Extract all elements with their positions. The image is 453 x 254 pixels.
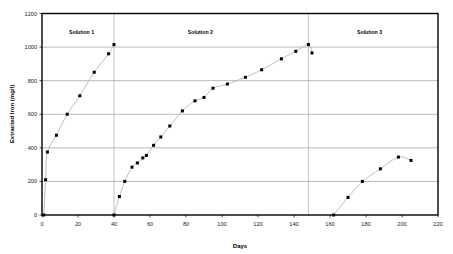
x-tick-label-60: 60 (147, 221, 153, 227)
data-point-s3-4 (397, 156, 400, 159)
y-tick-label-400: 400 (28, 145, 37, 151)
y-axis-title: Extracted Iron (mg/l) (9, 85, 15, 143)
x-tick-label-0: 0 (40, 221, 43, 227)
fit-curve-series-1 (44, 45, 114, 215)
fit-curves-group (44, 45, 411, 215)
data-point-s2-13 (212, 87, 215, 90)
data-point-s3-0 (332, 214, 335, 217)
data-point-s2-6 (145, 154, 148, 157)
extracted-iron-scatter-chart: 020040060080010001200 020406080100120140… (0, 0, 453, 254)
data-point-s2-1 (118, 195, 121, 198)
data-point-s1-8 (113, 43, 116, 46)
data-point-s2-3 (131, 166, 134, 169)
x-axis-title: Days (233, 243, 248, 249)
data-point-s2-10 (181, 109, 184, 112)
y-axis-ticks-group: 020040060080010001200 (25, 11, 42, 219)
series-annotations-group: Solution 1Solution 2Solution 3 (69, 29, 382, 35)
data-point-s2-12 (203, 96, 206, 99)
x-tick-label-100: 100 (217, 221, 226, 227)
series-annotation-2: Solution 2 (188, 29, 213, 35)
x-tick-label-120: 120 (253, 221, 262, 227)
data-point-s1-7 (107, 52, 110, 55)
data-point-s2-20 (311, 51, 314, 54)
data-point-s3-1 (347, 196, 350, 199)
y-tick-label-0: 0 (34, 212, 37, 218)
y-tick-label-200: 200 (28, 178, 37, 184)
x-tick-label-180: 180 (361, 221, 370, 227)
data-point-s2-4 (136, 161, 139, 164)
data-point-s2-19 (307, 43, 310, 46)
x-tick-label-200: 200 (397, 221, 406, 227)
series-annotation-1: Solution 1 (69, 29, 94, 35)
x-tick-label-160: 160 (325, 221, 334, 227)
data-point-s1-1 (44, 178, 47, 181)
y-tick-label-800: 800 (28, 78, 37, 84)
data-point-s3-5 (410, 159, 413, 162)
data-point-s2-16 (260, 68, 263, 71)
data-point-s2-0 (113, 214, 116, 217)
data-point-s1-6 (93, 71, 96, 74)
data-point-s2-7 (152, 144, 155, 147)
data-point-s1-5 (78, 94, 81, 97)
data-point-s2-2 (123, 180, 126, 183)
x-tick-label-220: 220 (433, 221, 442, 227)
x-tick-label-40: 40 (111, 221, 117, 227)
data-point-s2-18 (294, 50, 297, 53)
data-point-s1-0 (42, 214, 45, 217)
data-point-s1-2 (46, 151, 49, 154)
data-point-s2-15 (244, 76, 247, 79)
data-point-s2-11 (194, 99, 197, 102)
x-axis-ticks-group: 020406080100120140160180200220 (40, 215, 442, 227)
data-point-s2-9 (168, 125, 171, 128)
fit-curve-series-3 (334, 157, 411, 215)
x-tick-label-80: 80 (183, 221, 189, 227)
data-point-s3-3 (379, 167, 382, 170)
data-point-s2-14 (226, 83, 229, 86)
x-tick-label-140: 140 (289, 221, 298, 227)
chart-container: 020040060080010001200 020406080100120140… (0, 0, 453, 254)
data-point-s1-4 (66, 113, 69, 116)
gridlines-group (42, 47, 438, 181)
data-point-s3-2 (361, 180, 364, 183)
y-tick-label-1000: 1000 (25, 44, 37, 50)
data-point-s2-17 (280, 57, 283, 60)
fit-curve-series-2 (114, 45, 312, 215)
x-tick-label-20: 20 (75, 221, 81, 227)
data-point-s2-5 (141, 156, 144, 159)
series-annotation-3: Solution 3 (357, 29, 382, 35)
data-point-s1-3 (55, 134, 58, 137)
data-points-group (42, 43, 412, 216)
data-point-s2-8 (159, 135, 162, 138)
y-tick-label-600: 600 (28, 111, 37, 117)
y-tick-label-1200: 1200 (25, 11, 37, 17)
